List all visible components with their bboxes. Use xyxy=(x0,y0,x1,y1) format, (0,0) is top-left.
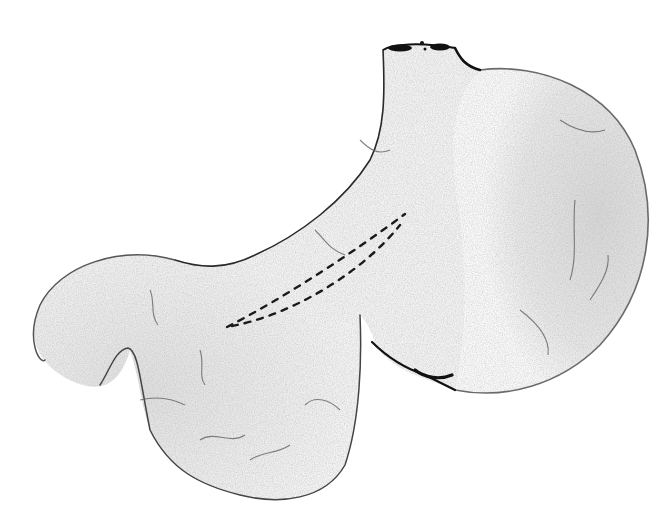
stomach-illustration xyxy=(0,0,667,518)
esophagus-dot xyxy=(424,48,427,51)
esophagus-lumen-left xyxy=(388,45,412,52)
stomach-body xyxy=(34,44,648,499)
stomach-texture xyxy=(34,44,648,499)
esophagus-dot xyxy=(420,41,424,45)
esophagus-lumen-right xyxy=(430,44,450,51)
figure-caption xyxy=(0,508,667,518)
